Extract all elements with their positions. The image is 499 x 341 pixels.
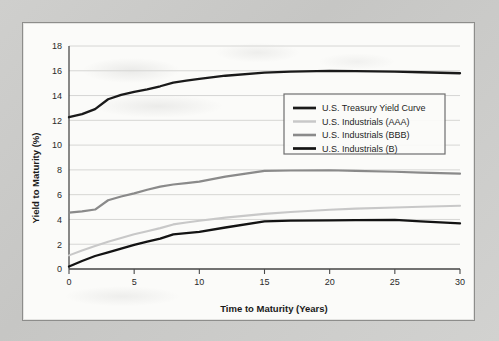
x-axis-tick-labels: 051015202530 <box>66 277 465 287</box>
x-tick-label: 30 <box>455 277 465 287</box>
series-line <box>69 220 460 267</box>
legend-label: U.S. Industrials (AAA) <box>322 117 410 127</box>
figure-panel: 024681012141618 051015202530 Time to Mat… <box>22 22 475 321</box>
chart-legend: U.S. Treasury Yield CurveU.S. Industrial… <box>284 94 445 154</box>
y-tick-label: 6 <box>57 190 62 200</box>
x-tick-label: 20 <box>325 277 335 287</box>
x-axis-title: Time to Maturity (Years) <box>220 303 328 314</box>
x-tick-label: 5 <box>132 277 137 287</box>
y-tick-label: 16 <box>52 66 62 76</box>
y-tick-label: 18 <box>52 41 62 51</box>
y-axis-tick-labels: 024681012141618 <box>52 41 62 274</box>
series-line <box>69 206 460 256</box>
y-tick-label: 10 <box>52 140 62 150</box>
legend-label: U.S. Industrials (B) <box>322 144 398 154</box>
legend-label: U.S. Industrials (BBB) <box>322 130 410 140</box>
x-tick-label: 0 <box>66 277 71 287</box>
y-tick-label: 0 <box>57 264 62 274</box>
screenshot-root: 024681012141618 051015202530 Time to Mat… <box>0 0 499 341</box>
y-tick-label: 8 <box>57 165 62 175</box>
y-axis-title: Yield to Maturity (%) <box>30 133 41 224</box>
x-tick-label: 10 <box>194 277 204 287</box>
yield-curve-chart: 024681012141618 051015202530 Time to Mat… <box>23 23 474 320</box>
y-tick-label: 14 <box>52 91 62 101</box>
y-tick-label: 12 <box>52 116 62 126</box>
x-tick-label: 25 <box>390 277 400 287</box>
y-tick-label: 2 <box>57 240 62 250</box>
x-axis-ticks <box>69 269 460 274</box>
legend-label: U.S. Treasury Yield Curve <box>322 103 426 113</box>
y-tick-label: 4 <box>57 215 62 225</box>
x-tick-label: 15 <box>259 277 269 287</box>
